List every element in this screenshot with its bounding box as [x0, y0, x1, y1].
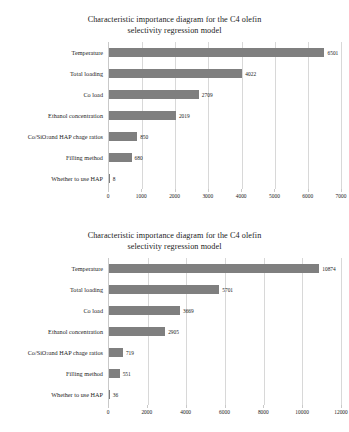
bar-value-label: 3669	[183, 308, 194, 314]
bar-series-top: 65014022270920198506808	[109, 42, 341, 189]
bar-series-bottom: 1087457013669290571955136	[109, 258, 341, 405]
x-tick-label: 2000	[169, 189, 180, 199]
x-tick-label: 7000	[336, 189, 347, 199]
bar-value-label: 850	[140, 134, 148, 140]
bar	[109, 132, 137, 141]
category-label: Whether to use HAP	[0, 384, 108, 405]
chart-title-line-1: Characteristic importance diagram for th…	[88, 231, 262, 240]
bar	[109, 264, 319, 273]
x-tick-label: 4000	[180, 405, 191, 415]
x-tick-label: 0	[107, 405, 110, 415]
bar-value-label: 8	[113, 176, 116, 182]
bar-value-label: 551	[123, 371, 131, 377]
plot-wrap-bottom: TemperatureTotal loadingCo loadEthanol c…	[0, 258, 349, 423]
chart-bottom: Characteristic importance diagram for th…	[0, 216, 349, 432]
x-axis-bottom: 020004000600080001000012000	[108, 405, 341, 423]
bar	[109, 48, 324, 57]
bar	[109, 111, 176, 120]
bar	[109, 327, 165, 336]
bar	[109, 369, 120, 378]
chart-title-bottom: Characteristic importance diagram for th…	[0, 216, 349, 252]
bar-row: 5701	[109, 279, 341, 300]
category-label: Co load	[0, 300, 108, 321]
chart-title-line-1: Characteristic importance diagram for th…	[88, 15, 262, 24]
bar-value-label: 2019	[179, 113, 190, 119]
x-tick-label: 6000	[219, 405, 230, 415]
bar-value-label: 4022	[245, 71, 256, 77]
x-tick-label: 4000	[236, 189, 247, 199]
bar-row: 2019	[109, 105, 341, 126]
category-axis-top: TemperatureTotal loadingCo loadEthanol c…	[0, 42, 108, 189]
bar-value-label: 2709	[202, 92, 213, 98]
chart-title-top: Characteristic importance diagram for th…	[0, 0, 349, 36]
category-label: Co load	[0, 84, 108, 105]
bar-row: 3669	[109, 300, 341, 321]
bar-row: 8	[109, 168, 341, 189]
bar	[109, 285, 219, 294]
x-tick-label: 1000	[136, 189, 147, 199]
x-tick-label: 3000	[202, 189, 213, 199]
bar-value-label: 2905	[168, 329, 179, 335]
x-tick-label: 8000	[258, 405, 269, 415]
category-label: Total loading	[0, 279, 108, 300]
category-label: Co/SiO2 and HAP chage ratios	[0, 342, 108, 363]
category-axis-bottom: TemperatureTotal loadingCo loadEthanol c…	[0, 258, 108, 405]
bar-row: 551	[109, 363, 341, 384]
bar	[109, 174, 110, 183]
bar	[109, 306, 180, 315]
category-label: Ethanol concentration	[0, 105, 108, 126]
bar-value-label: 719	[126, 350, 134, 356]
category-label: Whether to use HAP	[0, 168, 108, 189]
x-tick-label: 10000	[295, 405, 309, 415]
category-label: Temperature	[0, 42, 108, 63]
bar-value-label: 5701	[222, 287, 233, 293]
bar-row: 6501	[109, 42, 341, 63]
bar	[109, 69, 242, 78]
bar-row: 2905	[109, 321, 341, 342]
bar-row: 36	[109, 384, 341, 405]
plot-area-bottom: 1087457013669290571955136	[108, 258, 341, 405]
category-label: Ethanol concentration	[0, 321, 108, 342]
bar-value-label: 36	[113, 392, 118, 398]
plot-area-top: 65014022270920198506808	[108, 42, 341, 189]
bar	[109, 390, 110, 399]
bar-row: 719	[109, 342, 341, 363]
bar-value-label: 6501	[327, 50, 338, 56]
figure-page: Characteristic importance diagram for th…	[0, 0, 349, 432]
bar-row: 2709	[109, 84, 341, 105]
category-label: Temperature	[0, 258, 108, 279]
chart-top: Characteristic importance diagram for th…	[0, 0, 349, 216]
bar-row: 680	[109, 147, 341, 168]
category-label: Co/SiO2 and HAP chage ratios	[0, 126, 108, 147]
x-tick-label: 6000	[302, 189, 313, 199]
x-tick-label: 5000	[269, 189, 280, 199]
bar	[109, 153, 132, 162]
chart-title-line-2: selectivity regression model	[0, 241, 349, 252]
chart-title-line-2: selectivity regression model	[0, 25, 349, 36]
category-label: Filling method	[0, 363, 108, 384]
bar-row: 850	[109, 126, 341, 147]
bar-row: 10874	[109, 258, 341, 279]
x-tick-label: 2000	[141, 405, 152, 415]
gridline	[341, 42, 342, 189]
category-label: Total loading	[0, 63, 108, 84]
x-tick-label: 0	[107, 189, 110, 199]
x-tick-label: 12000	[334, 405, 348, 415]
x-axis-top: 01000200030004000500060007000	[108, 189, 341, 207]
bar-value-label: 680	[135, 155, 143, 161]
bar-row: 4022	[109, 63, 341, 84]
plot-wrap-top: TemperatureTotal loadingCo loadEthanol c…	[0, 42, 349, 207]
gridline	[341, 258, 342, 405]
bar	[109, 90, 199, 99]
category-label: Filling method	[0, 147, 108, 168]
bar-value-label: 10874	[322, 266, 336, 272]
bar	[109, 348, 123, 357]
